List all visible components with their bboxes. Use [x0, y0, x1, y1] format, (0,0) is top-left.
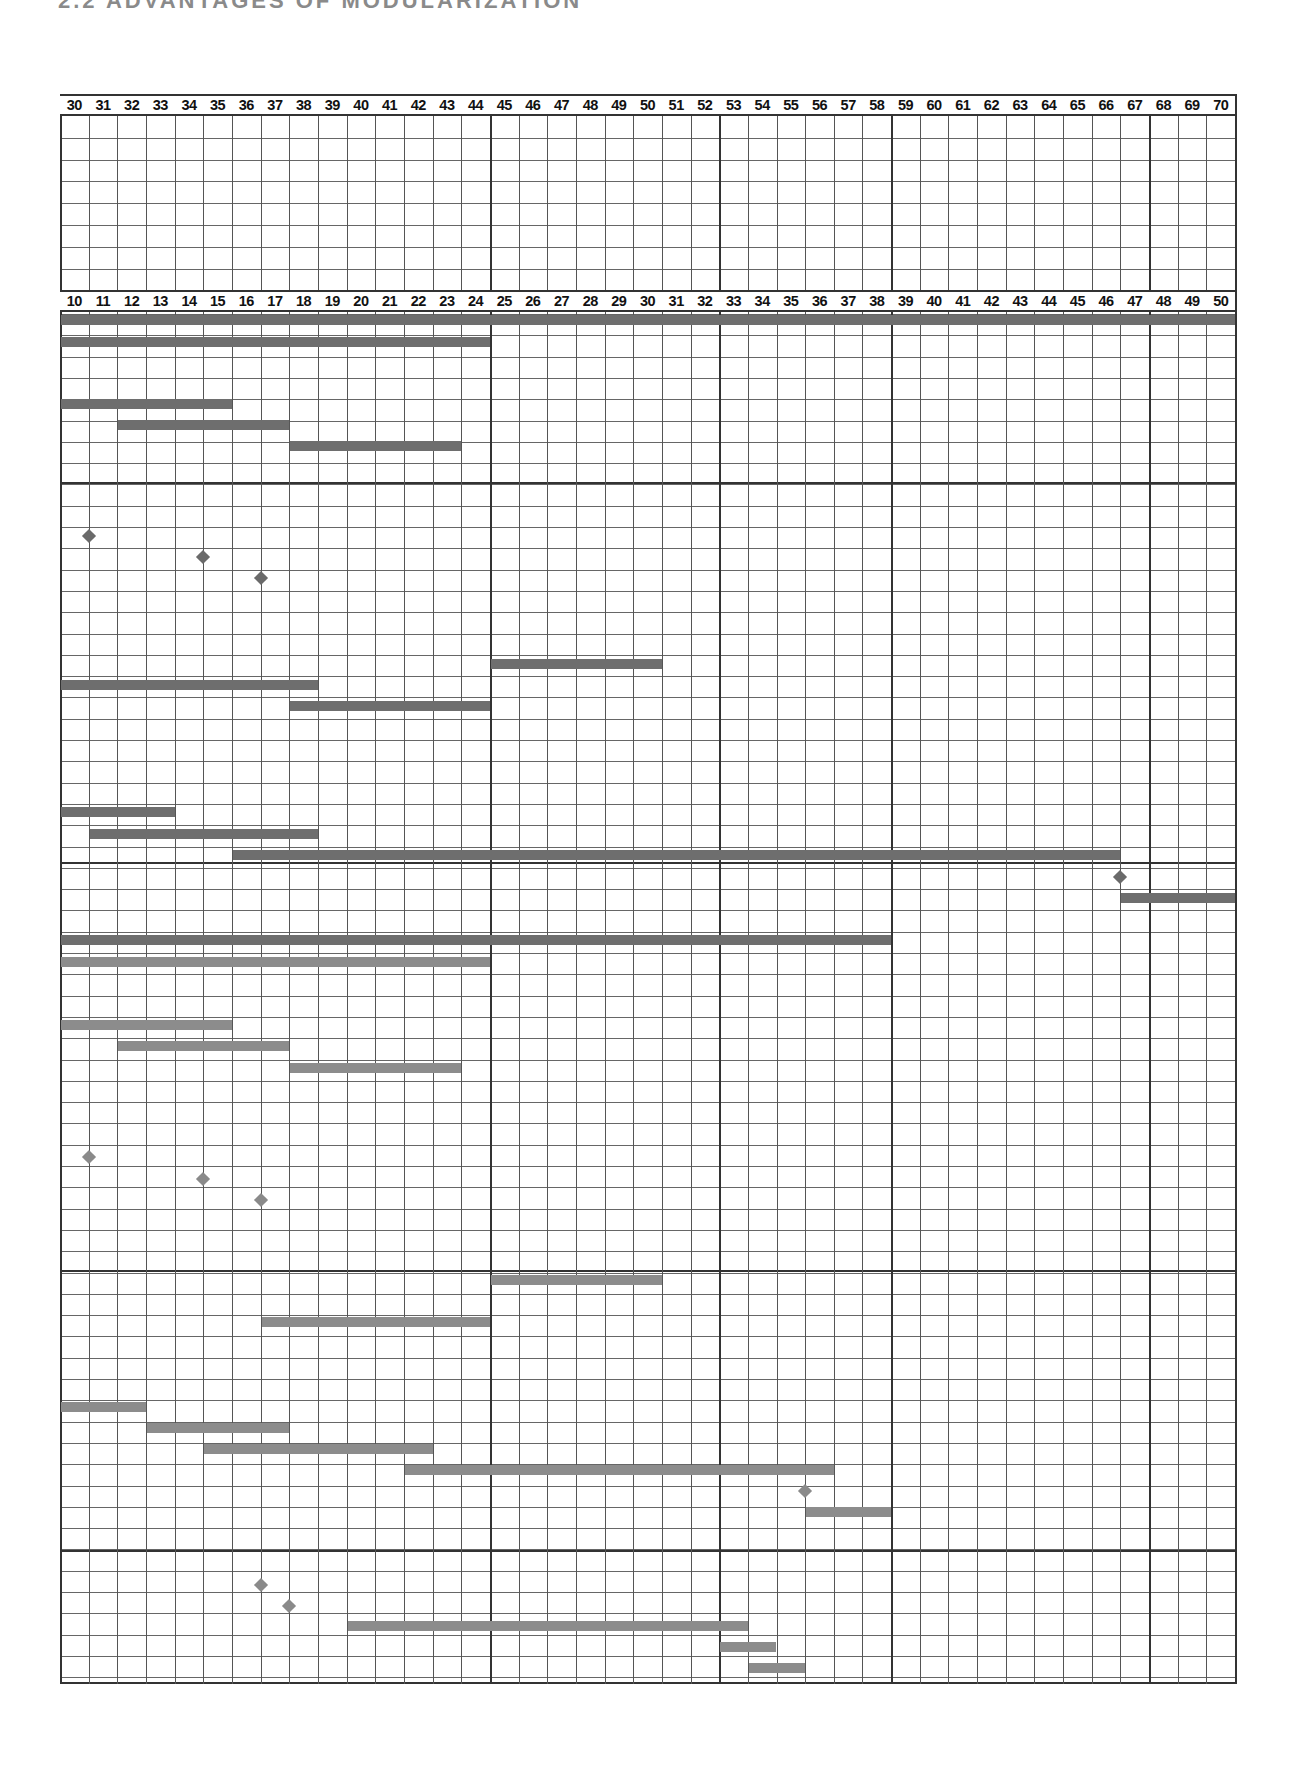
grid-line-h — [60, 225, 1235, 226]
header-tick: 42 — [404, 96, 433, 114]
grid-line-h — [60, 527, 1235, 528]
grid-line-h — [60, 1315, 1235, 1316]
header-tick: 54 — [748, 96, 777, 114]
header-tick: 27 — [547, 292, 576, 310]
grid-line-v — [633, 94, 634, 1684]
header-tick: 60 — [920, 96, 949, 114]
header-tick: 13 — [146, 292, 175, 310]
grid-line-h — [60, 1486, 1235, 1487]
grid-line-h — [60, 889, 1235, 890]
grid-line-h — [60, 655, 1235, 656]
grid-line-h — [60, 591, 1235, 592]
header-tick: 11 — [89, 292, 118, 310]
grid-line-v — [719, 94, 721, 1684]
grid-line-h — [60, 825, 1235, 826]
section-divider — [60, 1550, 1235, 1552]
header-tick: 48 — [1149, 292, 1178, 310]
header-tick: 24 — [461, 292, 490, 310]
header-tick: 59 — [891, 96, 920, 114]
grid-line-h — [60, 676, 1235, 677]
grid-line-v — [691, 94, 692, 1684]
header-tick: 65 — [1063, 96, 1092, 114]
grid-line-v — [920, 94, 921, 1684]
grid-line-v — [89, 94, 90, 1684]
grid-line-v — [948, 94, 949, 1684]
grid-line-h — [60, 463, 1235, 464]
task-bar — [290, 701, 490, 711]
grid-line-v — [117, 94, 118, 1684]
grid-line-v — [977, 94, 978, 1684]
task-bar — [491, 1275, 662, 1285]
task-bar — [61, 807, 175, 817]
grid-line-h — [60, 506, 1235, 507]
header-tick: 43 — [1006, 292, 1035, 310]
grid-line-h — [60, 1613, 1235, 1614]
grid-line-v — [1206, 94, 1207, 1684]
grid-line-h — [60, 442, 1235, 443]
task-bar — [290, 441, 461, 451]
grid-line-h — [60, 1571, 1235, 1572]
milestone-diamond-icon — [254, 1578, 268, 1592]
grid-line-h — [60, 932, 1235, 933]
task-bar — [118, 1041, 289, 1051]
task-bar — [61, 337, 490, 347]
header-tick: 37 — [834, 292, 863, 310]
header-tick: 35 — [777, 292, 806, 310]
grid-line-h — [60, 160, 1235, 161]
header-tick: 56 — [805, 96, 834, 114]
header-tick: 70 — [1206, 96, 1235, 114]
gantt-chart: 3031323334353637383940414243444546474849… — [0, 0, 1308, 1766]
grid-line-v — [519, 94, 520, 1684]
grid-line-v — [862, 94, 863, 1684]
section-divider — [60, 862, 1235, 864]
header-tick: 41 — [375, 96, 404, 114]
header-tick: 19 — [318, 292, 347, 310]
task-bar — [405, 1465, 834, 1475]
header-tick: 51 — [662, 96, 691, 114]
milestone-diamond-icon — [196, 550, 210, 564]
header-tick: 38 — [289, 96, 318, 114]
grid-line-h — [60, 1677, 1235, 1678]
header-tick: 32 — [691, 292, 720, 310]
header-tick: 17 — [261, 292, 290, 310]
grid-line-v — [891, 94, 893, 1684]
header-tick: 36 — [232, 96, 261, 114]
grid-line-h — [60, 548, 1235, 549]
milestone-diamond-icon — [1113, 870, 1127, 884]
task-bar — [262, 1317, 490, 1327]
grid-line-h — [60, 1145, 1235, 1146]
grid-line-h — [60, 634, 1235, 635]
grid-line-h — [60, 1251, 1235, 1252]
grid-line-h — [60, 910, 1235, 911]
grid-line-h — [60, 1038, 1235, 1039]
grid-line-h — [60, 1507, 1235, 1508]
grid-line-h — [60, 1592, 1235, 1593]
header-tick: 61 — [948, 96, 977, 114]
header-tick: 43 — [433, 96, 462, 114]
grid-line-v — [490, 94, 492, 1684]
grid-line-h — [60, 1379, 1235, 1380]
grid-line-h — [60, 697, 1235, 698]
grid-line-h — [60, 1187, 1235, 1188]
grid-line-h — [60, 996, 1235, 997]
header-tick: 48 — [576, 96, 605, 114]
grid-line-v — [834, 94, 835, 1684]
grid-line-h — [60, 357, 1235, 358]
task-bar — [720, 1642, 776, 1652]
grid-line-h — [60, 1656, 1235, 1657]
header-tick: 39 — [891, 292, 920, 310]
header-tick: 33 — [719, 292, 748, 310]
grid-line-v — [461, 94, 462, 1684]
header-tick: 37 — [261, 96, 290, 114]
header-tick: 58 — [862, 96, 891, 114]
task-bar — [61, 935, 891, 945]
grid-line-v — [1120, 94, 1121, 1684]
header-tick: 29 — [605, 292, 634, 310]
top-week-header: 3031323334353637383940414243444546474849… — [60, 94, 1235, 116]
grid-line-v — [748, 94, 749, 1684]
task-bar — [147, 1423, 289, 1433]
task-bar — [491, 659, 662, 669]
task-bar — [61, 399, 232, 409]
task-bar — [806, 1507, 891, 1517]
grid-line-v — [1092, 94, 1093, 1684]
